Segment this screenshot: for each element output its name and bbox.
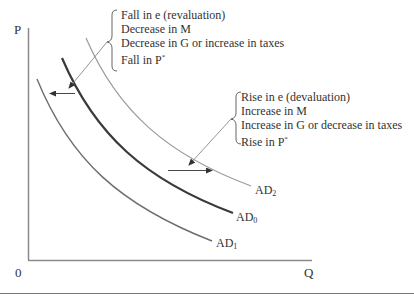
left-shift-note-line: Decrease in G or increase in taxes — [121, 36, 284, 50]
left-shift-leader — [69, 42, 107, 88]
left-shift-note-line: Fall in P* — [121, 50, 284, 67]
right-shift-leader — [189, 119, 231, 165]
x-axis-label: Q — [304, 265, 313, 281]
left-shift-brace — [107, 10, 117, 71]
ad2-label-base: AD — [255, 183, 272, 197]
origin-label: 0 — [15, 265, 22, 281]
left-shift-note-last: Fall in P — [121, 53, 162, 67]
ad1-curve — [37, 79, 212, 241]
ad2-label: AD2 — [255, 183, 276, 198]
left-shift-note-line: Decrease in M — [121, 22, 284, 36]
right-shift-note-line: Increase in M — [241, 104, 402, 118]
left-shift-note: Fall in e (revaluation) Decrease in M De… — [121, 8, 284, 67]
ad0-label: AD0 — [236, 210, 257, 225]
foreign-price-superscript: * — [162, 53, 166, 61]
left-shift-note-line: Fall in e (revaluation) — [121, 8, 284, 22]
right-shift-note-line: Rise in P* — [241, 132, 402, 149]
right-shift-brace — [231, 92, 241, 144]
ad0-label-base: AD — [236, 210, 253, 224]
ad0-label-subscript: 0 — [253, 216, 257, 225]
foreign-price-superscript: * — [284, 135, 288, 143]
right-shift-note-last: Rise in P — [241, 135, 284, 149]
ad1-label-subscript: 1 — [233, 242, 237, 251]
right-shift-note: Rise in e (devaluation) Increase in M In… — [241, 90, 402, 149]
ad1-label: AD1 — [216, 236, 237, 251]
right-shift-note-line: Increase in G or decrease in taxes — [241, 118, 402, 132]
ad1-label-base: AD — [216, 236, 233, 250]
ad2-label-subscript: 2 — [272, 189, 276, 198]
right-shift-note-line: Rise in e (devaluation) — [241, 90, 402, 104]
ad0-curve — [62, 58, 233, 213]
y-axis-label: P — [14, 22, 21, 38]
